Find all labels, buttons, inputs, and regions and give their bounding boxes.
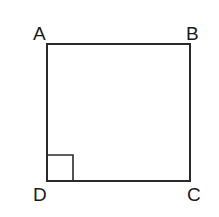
vertex-label-b: B (186, 23, 199, 44)
vertex-label-d: D (33, 184, 47, 205)
square-diagram: A B C D (0, 0, 219, 217)
right-angle-marker (47, 155, 73, 181)
vertex-label-a: A (33, 23, 46, 44)
vertex-label-c: C (187, 184, 201, 205)
square-abcd (47, 44, 190, 181)
